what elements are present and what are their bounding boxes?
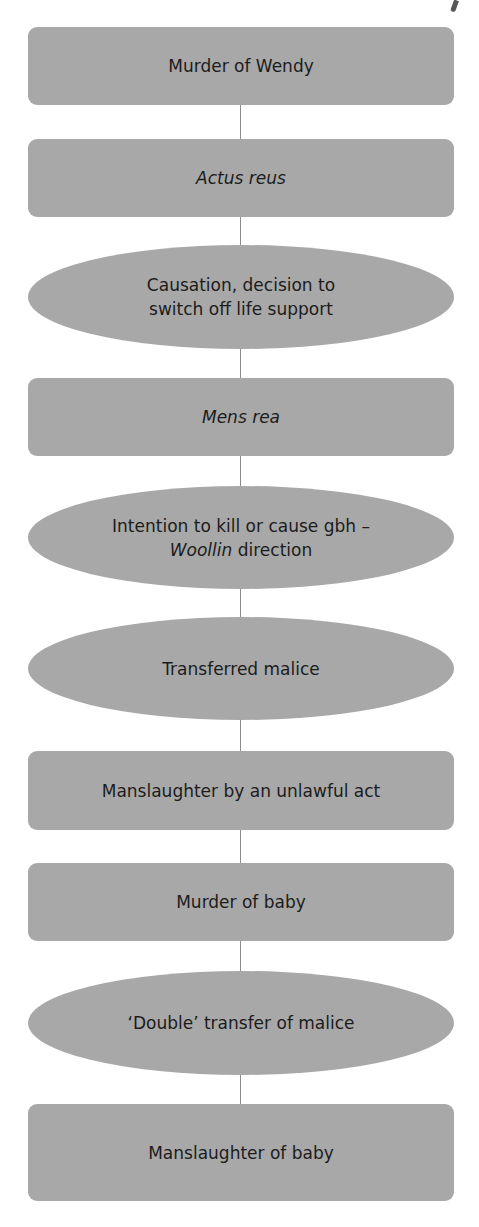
connector-2-3 [240,217,241,245]
connector-1-2 [240,105,241,139]
node-label: Intention to kill or cause gbh – Woollin… [112,514,370,562]
node-manslaughter-of-baby: Manslaughter of baby [28,1104,454,1201]
node-label: Mens rea [202,405,280,429]
node-label: Transferred malice [162,657,320,681]
node-double-transfer: ‘Double’ transfer of malice [28,971,454,1075]
node-manslaughter-unlawful-act: Manslaughter by an unlawful act [28,751,454,830]
node-intention: Intention to kill or cause gbh – Woollin… [28,486,454,589]
connector-3-4 [240,349,241,379]
node-label-line1: Causation, decision to [147,275,335,295]
connector-5-6 [240,589,241,617]
node-label: Manslaughter of baby [148,1141,334,1165]
node-label: Manslaughter by an unlawful act [102,779,380,803]
node-label-line2: switch off life support [149,299,333,319]
node-label-line1: Intention to kill or cause gbh – [112,516,370,536]
node-transferred-malice: Transferred malice [28,617,454,720]
node-causation: Causation, decision to switch off life s… [28,245,454,349]
scan-mark [450,0,459,12]
node-label-line2-rest: direction [232,540,312,560]
connector-6-7 [240,720,241,751]
connector-8-9 [240,941,241,971]
node-murder-of-baby: Murder of baby [28,863,454,941]
node-label: Causation, decision to switch off life s… [147,273,335,321]
connector-7-8 [240,830,241,863]
node-label: Murder of Wendy [168,54,313,78]
node-label-case-name: Woollin [170,540,233,560]
node-murder-of-wendy: Murder of Wendy [28,27,454,105]
connector-4-5 [240,456,241,486]
node-actus-reus: Actus reus [28,139,454,217]
node-mens-rea: Mens rea [28,378,454,456]
node-label: Murder of baby [176,890,306,914]
node-label: Actus reus [196,166,286,190]
connector-9-10 [240,1075,241,1105]
node-label: ‘Double’ transfer of malice [127,1011,354,1035]
flowchart: Murder of Wendy Actus reus Causation, de… [0,0,479,1227]
